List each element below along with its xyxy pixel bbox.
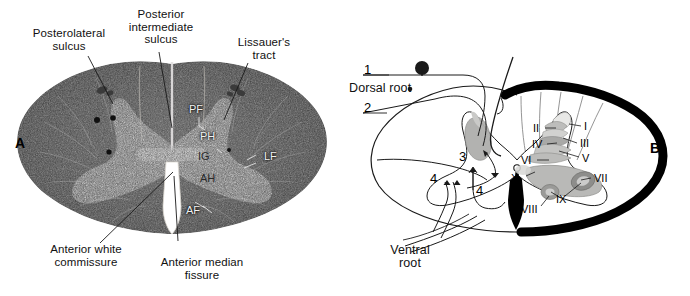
label-lamina-IV: IV <box>532 138 542 150</box>
label-lamina-I: I <box>584 120 587 132</box>
label-lamina-III: III <box>580 137 589 149</box>
figure-spinal-cord-cross-section: A Posterolateral sulcus Posterior interm… <box>0 0 690 296</box>
label-ventral-root: Ventral root <box>365 244 455 269</box>
label-posterior-horn: PH <box>200 130 215 142</box>
label-lamina-IX: IX <box>556 193 566 205</box>
label-dorsal-root: Dorsal root <box>349 82 411 95</box>
label-neuron-4b: 4 <box>476 183 483 198</box>
label-lamina-VI: VI <box>521 154 531 166</box>
label-posterior-intermediate-sulcus: Posterior intermediate sulcus <box>102 8 220 46</box>
artifact-dot-2 <box>110 115 116 121</box>
label-anterior-white-commissure: Anterior white commissure <box>22 243 150 268</box>
label-neuron-4a: 4 <box>430 171 437 186</box>
label-lamina-X: X <box>511 172 518 184</box>
label-neuron-2: 2 <box>364 100 371 115</box>
panel-b: B Dorsal root Ventral root 1 2 3 4 4 I I… <box>345 0 690 296</box>
label-lamina-V: V <box>582 152 589 164</box>
gray-commissure <box>138 148 206 161</box>
label-neuron-1: 1 <box>364 62 371 77</box>
panel-b-label: B <box>650 140 660 156</box>
panel-a: A Posterolateral sulcus Posterior interm… <box>0 0 345 296</box>
artifact-dot-3 <box>106 149 111 154</box>
label-lamina-VII: VII <box>594 172 607 184</box>
label-posterior-funiculus: PF <box>189 103 203 115</box>
label-anterior-median-fissure: Anterior median fissure <box>138 256 266 281</box>
label-lamina-II: II <box>533 122 539 134</box>
label-lateral-funiculus: LF <box>264 150 277 162</box>
label-lissauers-tract: Lissauer's tract <box>222 36 306 61</box>
label-intermediate-gray: IG <box>198 150 210 162</box>
label-anterior-horn: AH <box>200 172 215 184</box>
label-neuron-3: 3 <box>459 149 466 164</box>
artifact-dot-4 <box>227 148 231 152</box>
label-anterior-funiculus: AF <box>186 204 200 216</box>
panel-a-label: A <box>15 135 25 151</box>
label-lamina-VIII: VIII <box>521 203 538 215</box>
artifact-dot-1 <box>94 117 100 123</box>
